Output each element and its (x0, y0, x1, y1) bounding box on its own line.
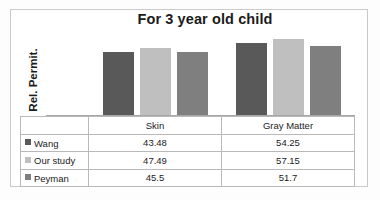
legend-entry-peyman: Peyman (21, 169, 89, 187)
bar-gray-matter-peyman (310, 46, 341, 116)
bar-group-skin (88, 30, 222, 116)
bar-skin-our-study (140, 48, 171, 116)
cell-our-study-gray-matter: 57.15 (222, 152, 355, 170)
bar-skin-peyman (177, 52, 208, 116)
medium-gray-swatch-icon (25, 174, 31, 180)
column-header-skin: Skin (89, 117, 222, 135)
legend-entry-our-study: Our study (21, 152, 89, 170)
y-axis-label: Rel. Permit. (22, 44, 44, 116)
table-row: Peyman 45.5 51.7 (21, 169, 355, 187)
cell-peyman-skin: 45.5 (89, 169, 222, 187)
chart-title: For 3 year old child (60, 11, 350, 27)
chart-figure: For 3 year old child Rel. Permit. Skin G… (0, 0, 380, 200)
legend-entry-wang: Wang (21, 134, 89, 152)
bar-gray-matter-wang (236, 43, 267, 116)
legend-label-our-study: Our study (34, 155, 75, 166)
cell-wang-skin: 43.48 (89, 134, 222, 152)
bar-skin-wang (103, 52, 134, 116)
bar-group-gray-matter (222, 30, 355, 116)
table-row: Wang 43.48 54.25 (21, 134, 355, 152)
cell-wang-gray-matter: 54.25 (222, 134, 355, 152)
cell-peyman-gray-matter: 51.7 (222, 169, 355, 187)
bar-gray-matter-our-study (273, 39, 304, 116)
cell-our-study-skin: 47.49 (89, 152, 222, 170)
legend-label-wang: Wang (34, 138, 58, 149)
column-header-gray-matter: Gray Matter (222, 117, 355, 135)
table-header-row: Skin Gray Matter (21, 117, 355, 135)
plot-area (46, 30, 355, 116)
legend-label-peyman: Peyman (34, 173, 69, 184)
dark-gray-swatch-icon (25, 139, 31, 145)
light-gray-swatch-icon (25, 157, 31, 163)
table-corner-blank (21, 117, 89, 135)
table-row: Our study 47.49 57.15 (21, 152, 355, 170)
y-axis-label-text: Rel. Permit. (27, 48, 39, 111)
data-table: Skin Gray Matter Wang 43.48 54.25 Our st… (20, 116, 355, 187)
